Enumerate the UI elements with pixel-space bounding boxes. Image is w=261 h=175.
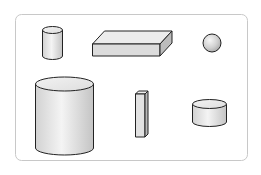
shapes-figure [0, 0, 261, 175]
short-cylinder-shape [193, 100, 227, 127]
tall-prism-shape [136, 91, 149, 137]
flat-box-shape [93, 31, 173, 56]
sphere-shape [203, 34, 221, 52]
small-cylinder-shape [43, 27, 63, 60]
large-cylinder-shape [36, 77, 94, 155]
